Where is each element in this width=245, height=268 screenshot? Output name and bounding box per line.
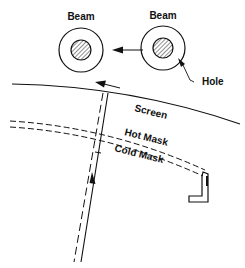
cold-mask-label: Cold Mask xyxy=(114,142,166,165)
hole-label: Hole xyxy=(202,76,224,87)
hot-mask-label: Hot Mask xyxy=(124,126,170,148)
beam-left-label: Beam xyxy=(67,11,94,22)
electron-beam-path xyxy=(74,93,108,262)
beam-spot-right: Beam xyxy=(141,10,185,70)
beam-shift-arrow xyxy=(112,47,143,54)
beam-hatched-core-icon xyxy=(71,40,91,60)
beam-mask-diagram: Beam Beam Hole Screen Hot Mask Cold Mask xyxy=(0,0,245,268)
screen-label: Screen xyxy=(134,102,169,121)
arrow-left-icon xyxy=(112,47,123,54)
screen-curve xyxy=(12,84,240,124)
beam-spot-left: Beam xyxy=(59,11,103,72)
mask-frame-bracket xyxy=(189,172,208,202)
hole-pointer: Hole xyxy=(178,58,224,87)
screen-shift-arrow xyxy=(95,81,120,89)
beam-right-label: Beam xyxy=(149,10,176,21)
beam-hatched-core-icon xyxy=(153,38,173,58)
arrow-left-icon xyxy=(95,81,106,88)
hot-mask xyxy=(10,121,205,176)
